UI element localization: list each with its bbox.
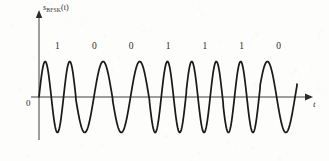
origin-label: 0 [26, 99, 31, 108]
y-axis-label: sBFSK(t) [43, 4, 69, 13]
bit-label: 0 [87, 42, 101, 52]
x-axis-label: t [313, 100, 316, 109]
bit-label: 0 [272, 42, 286, 52]
bit-label: 1 [198, 42, 212, 52]
bit-label: 1 [161, 42, 175, 52]
plot-canvas [0, 0, 329, 161]
bfsk-waveform-figure: sBFSK(t) 0 t 1001110 [0, 0, 329, 161]
y-axis-label-argument: (t) [61, 3, 69, 12]
bit-label: 0 [124, 42, 138, 52]
bit-label: 1 [235, 42, 249, 52]
bit-label: 1 [50, 42, 64, 52]
x-axis-arrowhead [305, 94, 313, 101]
x-axis [31, 94, 313, 101]
y-axis-arrowhead [36, 10, 42, 18]
y-axis-label-subscript: BFSK [46, 7, 61, 13]
